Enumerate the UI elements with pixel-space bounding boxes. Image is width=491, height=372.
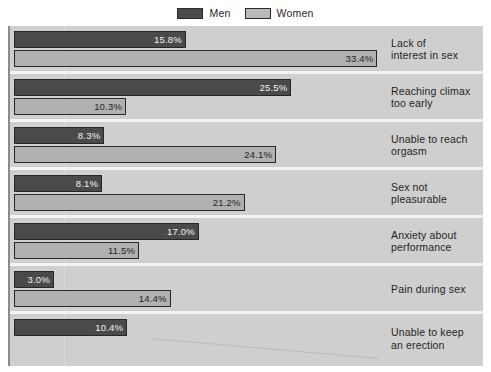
bar-value-label-women: 21.2%: [213, 198, 241, 208]
bar-value-label-women: 10.3%: [94, 102, 122, 112]
category-label-line1: Anxiety about: [391, 228, 483, 241]
bar-women[interactable]: 14.4%: [14, 290, 171, 307]
category-label: Reaching climaxtoo early: [391, 84, 483, 109]
bar-row: 8.1%21.2%Sex notpleasurable: [10, 170, 483, 218]
bar-row: 8.3%24.1%Unable to reachorgasm: [10, 122, 483, 170]
category-label-line1: Sex not: [391, 180, 483, 193]
category-label-line2: pleasurable: [391, 193, 483, 206]
category-label-line1: Unable to keep: [391, 326, 483, 339]
category-label-line2: interest in sex: [391, 49, 483, 62]
bar-women[interactable]: 24.1%: [14, 146, 276, 163]
legend-swatch-men-icon: [177, 8, 203, 19]
bar-value-label-men: 8.1%: [76, 179, 98, 189]
bar-value-label-men: 15.8%: [154, 35, 182, 45]
legend-item-women: Women: [245, 8, 314, 19]
bar-value-label-women: 14.4%: [139, 294, 167, 304]
bar-value-label-men: 17.0%: [167, 227, 195, 237]
legend-label-women: Women: [277, 8, 314, 19]
category-label-line2: performance: [391, 241, 483, 254]
category-label: Sex notpleasurable: [391, 180, 483, 205]
plot-area: 15.8%33.4%Lack ofinterest in sex25.5%10.…: [8, 26, 483, 366]
bar-women[interactable]: 33.4%: [14, 50, 377, 67]
category-label-line2: too early: [391, 97, 483, 110]
bar-value-label-men: 10.4%: [95, 323, 123, 333]
chart-legend: Men Women: [0, 3, 491, 23]
bar-value-label-women: 24.1%: [244, 150, 272, 160]
bar-women[interactable]: 21.2%: [14, 194, 245, 211]
bar-row: 17.0%11.5%Anxiety aboutperformance: [10, 218, 483, 266]
chart-figure: Men Women 15.8%33.4%Lack ofinterest in s…: [0, 0, 491, 372]
category-label: Anxiety aboutperformance: [391, 228, 483, 253]
category-label-line1: Lack of: [391, 36, 483, 49]
bar-row: 15.8%33.4%Lack ofinterest in sex: [10, 26, 483, 74]
category-label-line2: orgasm: [391, 145, 483, 158]
category-label-line1: Unable to reach: [391, 132, 483, 145]
legend-label-men: Men: [209, 8, 230, 19]
bar-men[interactable]: 17.0%: [14, 223, 199, 240]
bar-row: 3.0%14.4%Pain during sex: [10, 266, 483, 314]
bar-men[interactable]: 8.1%: [14, 175, 102, 192]
bar-men[interactable]: 15.8%: [14, 31, 186, 48]
category-label-line1: Pain during sex: [391, 282, 483, 295]
category-label: Pain during sex: [391, 282, 483, 295]
bar-men[interactable]: 8.3%: [14, 127, 104, 144]
legend-swatch-women-icon: [245, 8, 271, 19]
bar-row: 10.4%Unable to keepan erection: [10, 314, 483, 362]
bar-value-label-men: 8.3%: [78, 131, 100, 141]
category-label-line1: Reaching climax: [391, 84, 483, 97]
bar-value-label-men: 3.0%: [28, 275, 50, 285]
bar-row: 25.5%10.3%Reaching climaxtoo early: [10, 74, 483, 122]
category-label: Unable to reachorgasm: [391, 132, 483, 157]
category-label-line2: an erection: [391, 338, 483, 351]
bar-men[interactable]: 25.5%: [14, 79, 291, 96]
category-label: Unable to keepan erection: [391, 326, 483, 351]
bar-value-label-women: 33.4%: [345, 54, 373, 64]
bar-value-label-men: 25.5%: [260, 83, 288, 93]
bar-women[interactable]: 10.3%: [14, 98, 126, 115]
legend-item-men: Men: [177, 8, 230, 19]
bar-women[interactable]: 11.5%: [14, 242, 139, 259]
bar-rows: 15.8%33.4%Lack ofinterest in sex25.5%10.…: [10, 26, 483, 366]
bar-men[interactable]: 10.4%: [14, 319, 127, 336]
bar-value-label-women: 11.5%: [108, 246, 135, 256]
category-label: Lack ofinterest in sex: [391, 36, 483, 61]
bar-men[interactable]: 3.0%: [14, 271, 54, 288]
